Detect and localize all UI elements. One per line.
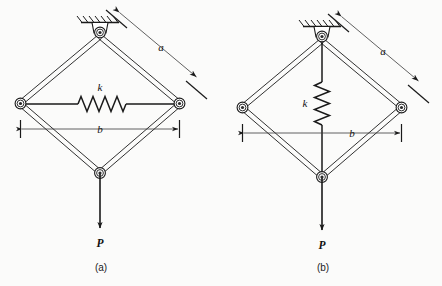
link-lower-left-b <box>241 107 324 179</box>
link-upper-right-a <box>99 35 182 105</box>
link-upper-left-b <box>241 39 324 109</box>
link-upper-right-b <box>321 39 404 109</box>
pin-left-b <box>237 102 248 113</box>
label-b-a: b <box>97 123 103 135</box>
pin-top-b <box>317 31 328 42</box>
spring-assembly-a <box>23 97 178 112</box>
pin-left-a <box>15 98 26 109</box>
link-lower-left-a <box>19 103 102 175</box>
label-k-a: k <box>98 81 104 93</box>
spring-assembly-b <box>315 42 330 176</box>
dimension-a-b <box>328 14 429 103</box>
panel-a: k a b P (a) <box>15 10 207 273</box>
caption-b: (b) <box>317 262 329 273</box>
panel-b: k a b P (b) <box>237 14 429 273</box>
figure-root: k a b P (a) <box>0 0 442 286</box>
pin-right-a <box>174 98 185 109</box>
link-lower-right-b <box>321 107 404 179</box>
label-p-a: P <box>96 237 104 249</box>
label-p-b: P <box>318 239 326 251</box>
label-a-b: a <box>380 45 386 57</box>
link-lower-right-a <box>99 103 182 175</box>
caption-a: (a) <box>95 262 107 273</box>
link-upper-left-a <box>19 35 102 105</box>
linkage-figure-svg: k a b P (a) <box>0 0 442 286</box>
label-b-b: b <box>349 127 355 139</box>
label-k-b: k <box>303 97 309 109</box>
pin-top-a <box>95 27 106 38</box>
label-a-a: a <box>158 41 164 53</box>
pin-right-b <box>396 102 407 113</box>
dimension-a-a <box>106 10 207 99</box>
